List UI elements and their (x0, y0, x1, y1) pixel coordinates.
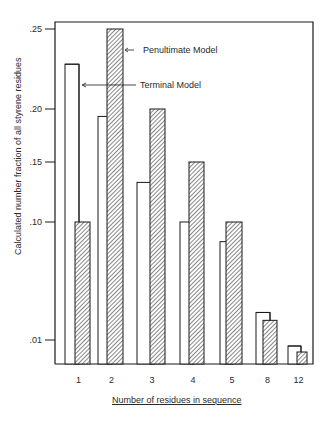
bar-group (256, 312, 277, 364)
x-tick-label: 8 (265, 375, 270, 385)
x-tick-label: 5 (229, 375, 234, 385)
bar-group (288, 346, 307, 364)
y-tick-label: .20 (29, 104, 42, 114)
bar-group (137, 109, 165, 364)
bar-group (220, 222, 242, 364)
x-tick-label: 4 (190, 375, 195, 385)
penultimate-bar (75, 222, 90, 364)
y-tick-label: .25 (29, 24, 42, 34)
legend-penultimate-label: Penultimate Model (143, 45, 218, 55)
x-tick-label: 2 (109, 375, 114, 385)
legend: Penultimate ModelTerminal Model (82, 45, 218, 90)
penultimate-bar (150, 109, 165, 364)
penultimate-bar (189, 162, 204, 364)
penultimate-bar (107, 29, 123, 364)
y-axis: .01.10.15.20.25 (29, 24, 55, 345)
bar-group (180, 162, 204, 364)
bar-group (65, 64, 90, 364)
legend-terminal-label: Terminal Model (140, 80, 201, 90)
y-tick-label: .15 (29, 157, 42, 167)
y-tick-label: .01 (29, 335, 42, 345)
bar-chart: .01.10.15.20.25 12345812 Penultimate Mod… (0, 0, 331, 426)
x-axis: 12345812 (76, 375, 304, 385)
y-axis-label: Calculated number fraction of all styren… (13, 95, 23, 255)
penultimate-bar (226, 222, 242, 364)
x-tick-label: 3 (149, 375, 154, 385)
bar-group (98, 29, 123, 364)
x-tick-label: 1 (76, 375, 81, 385)
x-axis-label: Number of residues in sequence (112, 395, 242, 405)
x-tick-label: 12 (293, 375, 303, 385)
y-tick-label: .10 (29, 217, 42, 227)
penultimate-bar (297, 352, 307, 364)
penultimate-bar (263, 320, 277, 364)
